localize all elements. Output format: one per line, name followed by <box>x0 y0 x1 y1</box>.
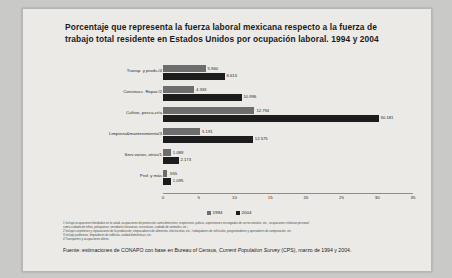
bar-value-label: 12.794 <box>256 108 269 113</box>
bar-value-label: 5.960 <box>208 66 218 71</box>
bar-1994 <box>163 128 200 135</box>
x-tick-label: 5 <box>197 195 199 200</box>
x-tick-label: 25 <box>339 195 344 200</box>
bar-value-label: 30.181 <box>381 115 394 120</box>
footnote-line: 4 Transportes y ocupaciones afines. <box>63 237 393 241</box>
legend-item-1994: 1994 <box>207 210 223 215</box>
category-label: Construcc. Repar./2 <box>42 89 162 95</box>
bar-2004 <box>163 178 171 185</box>
legend-item-2004: 2004 <box>236 210 252 215</box>
chart-legend: 1994 2004 <box>43 210 415 215</box>
chart-plot-area: Transp. y prods./45.9608.615Construcc. R… <box>43 64 415 204</box>
bar-1994 <box>163 170 167 177</box>
bar-value-label: 4.333 <box>196 87 206 92</box>
bar-row: Prof. y más.5551.095 <box>43 169 415 190</box>
category-label: Prof. y más <box>42 173 162 179</box>
bar-group: 5.19112.575 <box>163 127 413 148</box>
legend-swatch-1994 <box>207 211 211 215</box>
bar-row: Construcc. Repar./24.33310.996 <box>43 85 415 106</box>
bar-value-label: 5.191 <box>202 129 212 134</box>
bar-row: Cultivo, pesca,cría12.79430.181 <box>43 106 415 127</box>
bar-2004 <box>163 94 242 101</box>
bar-1994 <box>163 107 254 114</box>
bar-value-label: 8.615 <box>227 73 237 78</box>
legend-label-1994: 1994 <box>213 210 223 215</box>
x-tick-label: 0 <box>162 195 164 200</box>
category-label: Transp. y prods./4 <box>42 68 162 74</box>
x-tick-label: 35 <box>411 195 416 200</box>
source-text: Fuente: estimaciones de CONAPO con base … <box>63 247 351 253</box>
legend-swatch-2004 <box>236 211 240 215</box>
category-label: Serv.varios, otros/1 <box>42 152 162 158</box>
bar-1994 <box>163 65 206 72</box>
bar-1994 <box>163 149 171 156</box>
bar-value-label: 10.996 <box>244 94 257 99</box>
bar-group: 5.9608.615 <box>163 64 413 85</box>
category-label: Cultivo, pesca,cría <box>42 110 162 116</box>
x-tick-label: 10 <box>232 195 237 200</box>
legend-label-2004: 2004 <box>242 210 252 215</box>
bar-value-label: 1.095 <box>173 178 183 183</box>
bar-row: Limpieza&mantenimiento/35.19112.575 <box>43 127 415 148</box>
bar-group: 1.0882.173 <box>163 148 413 169</box>
bar-1994 <box>163 86 194 93</box>
bar-value-label: 12.575 <box>255 136 268 141</box>
x-tick-label: 15 <box>268 195 273 200</box>
x-axis-line <box>163 193 413 194</box>
bar-2004 <box>163 115 379 122</box>
bar-value-label: 2.173 <box>181 157 191 162</box>
bar-row: Serv.varios, otros/11.0882.173 <box>43 148 415 169</box>
bar-2004 <box>163 157 179 164</box>
bar-value-label: 1.088 <box>173 150 183 155</box>
bar-2004 <box>163 136 253 143</box>
source-line: Fuente: estimaciones de CONAPO con base … <box>63 247 403 253</box>
bar-value-label: .555 <box>169 171 177 176</box>
chart-page: Porcentaje que representa la fuerza labo… <box>22 8 432 272</box>
x-tick-label: 20 <box>303 195 308 200</box>
bar-row: Transp. y prods./45.9608.615 <box>43 64 415 85</box>
footnotes: 1 Incluye ocupaciones brindadas en la sa… <box>63 221 393 241</box>
bar-group: 12.79430.181 <box>163 106 413 127</box>
x-tick-label: 30 <box>375 195 380 200</box>
bar-group: .5551.095 <box>163 169 413 190</box>
bar-2004 <box>163 73 225 80</box>
category-label: Limpieza&mantenimiento/3 <box>42 131 162 137</box>
bar-group: 4.33310.996 <box>163 85 413 106</box>
page-title: Porcentaje que representa la fuerza labo… <box>65 22 383 45</box>
